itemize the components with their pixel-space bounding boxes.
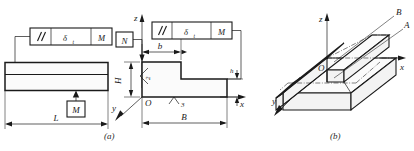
- dimension-mid-H-label: H: [113, 77, 123, 85]
- dimension-mid-H: H: [113, 62, 140, 97]
- part-mid-outline: [142, 62, 227, 97]
- dimension-mid-h-label: h: [230, 67, 234, 75]
- parallelism-symbol-icon: [38, 32, 46, 41]
- axis-y-label-b: y: [271, 96, 276, 106]
- surface-2-label: 2: [144, 76, 152, 80]
- datum-triangle-icon: [73, 91, 79, 98]
- part-a-body: [5, 63, 108, 91]
- rail-center-end-face: [327, 70, 344, 82]
- surface-3-label: 3: [180, 101, 185, 109]
- origin-label-b: O: [318, 63, 325, 73]
- dimension-a-length-label: L: [52, 113, 58, 123]
- dimension-mid-B-label: B: [181, 112, 187, 122]
- fcf-a: δ t M: [30, 28, 112, 45]
- axis-z-label-b: z: [318, 14, 323, 24]
- part-a-outline: [5, 63, 108, 91]
- note-n-label: N: [120, 36, 128, 46]
- dimension-mid-B: B: [142, 97, 227, 128]
- datum-feature-a: M: [67, 91, 85, 118]
- axis-z-label: z: [133, 13, 138, 23]
- axis-x-label-b: x: [399, 62, 404, 72]
- dimension-mid-b-label: b: [158, 41, 163, 51]
- parallelism-symbol-icon: [159, 26, 167, 35]
- dimension-a-length: L: [5, 91, 108, 130]
- figure-b-isometric-view: z x y O B: [268, 0, 414, 151]
- part-mid-profile: [142, 62, 227, 97]
- note-box-n: N: [116, 32, 145, 62]
- surface-callout-3: 3: [169, 97, 185, 109]
- datum-a-label: M: [71, 105, 80, 115]
- fcf-mid-datum-letter: M: [217, 27, 226, 37]
- axis-x-label: x: [239, 99, 244, 109]
- fcf-mid-tolerance-subscript: t: [194, 33, 196, 39]
- axis-y-label: y: [111, 103, 116, 113]
- caption-b: (b): [330, 131, 341, 141]
- fcf-a-tolerance-subscript: t: [73, 39, 75, 45]
- fcf-a-tolerance-value: δ: [63, 33, 68, 43]
- figure-mid-section-view: N δ t M z: [110, 0, 275, 151]
- dimension-mid-b: b: [142, 39, 187, 60]
- fcf-mid-tolerance-value: δ: [184, 27, 189, 37]
- plane-a-label: A: [403, 20, 410, 30]
- fcf-a-datum-letter: M: [97, 33, 106, 43]
- origin-label-mid: O: [145, 98, 152, 108]
- axis-z-b: z: [318, 13, 329, 58]
- axis-y-mid: y: [111, 97, 142, 121]
- plane-b-label: B: [396, 7, 402, 17]
